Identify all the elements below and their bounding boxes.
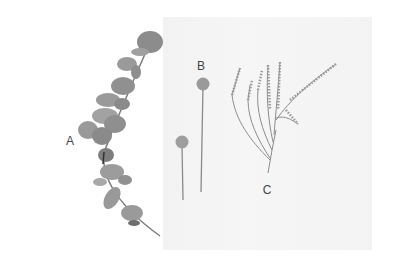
label-a: A (66, 135, 74, 147)
plants-illustration (0, 0, 397, 270)
billy-button-stems (176, 78, 210, 201)
eucalyptus-sprig (78, 31, 163, 236)
label-b: B (197, 60, 205, 72)
label-c: C (263, 184, 272, 196)
photo-scene: A B C (0, 0, 397, 270)
feathery-sprig (232, 62, 336, 173)
